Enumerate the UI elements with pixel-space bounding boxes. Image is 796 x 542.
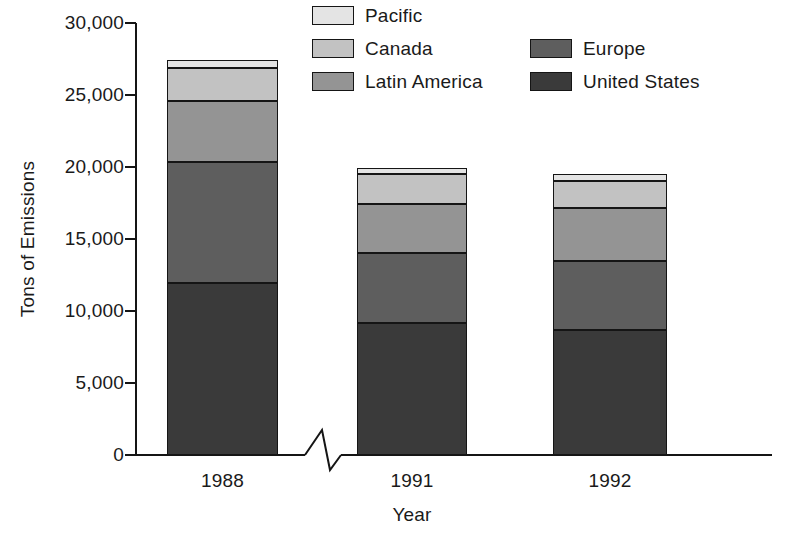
legend-item-pacific: Pacific: [312, 6, 422, 25]
bar-segment-pacific: [553, 174, 667, 180]
bar-segment-canada: [357, 174, 467, 204]
bar-segment-united-states: [167, 283, 278, 455]
legend-label: United States: [583, 72, 700, 91]
bar-segment-europe: [167, 162, 278, 283]
bar-segment-europe: [553, 261, 667, 330]
x-axis-tick-label-1991: 1991: [337, 470, 487, 492]
legend-label: Canada: [365, 39, 433, 58]
x-axis-tick-label-1988: 1988: [148, 470, 298, 492]
bar-segment-united-states: [357, 323, 467, 455]
bar-segment-latin-america: [553, 208, 667, 261]
bar-segment-pacific: [167, 60, 278, 69]
emissions-stacked-bar-chart: Tons of Emissions 30,00025,00020,00015,0…: [0, 0, 796, 542]
bar-segment-united-states: [553, 330, 667, 455]
legend-swatch-icon: [530, 39, 572, 58]
legend-swatch-icon: [312, 6, 354, 25]
bar-segment-canada: [167, 68, 278, 100]
legend-item-united-states: United States: [530, 72, 700, 91]
x-axis-tick-label-1992: 1992: [535, 470, 685, 492]
bar-1988: [167, 0, 278, 542]
legend-swatch-icon: [312, 72, 354, 91]
bar-segment-pacific: [357, 168, 467, 174]
legend-label: Latin America: [365, 72, 483, 91]
bar-segment-canada: [553, 181, 667, 208]
chart-legend: PacificCanadaLatin AmericaEuropeUnited S…: [312, 6, 772, 106]
bar-segment-latin-america: [357, 204, 467, 254]
x-axis-title: Year: [337, 504, 487, 526]
legend-item-latin-america: Latin America: [312, 72, 483, 91]
legend-label: Pacific: [365, 6, 422, 25]
legend-item-europe: Europe: [530, 39, 645, 58]
legend-item-canada: Canada: [312, 39, 433, 58]
legend-swatch-icon: [530, 72, 572, 91]
legend-label: Europe: [583, 39, 645, 58]
bar-segment-europe: [357, 253, 467, 323]
legend-swatch-icon: [312, 39, 354, 58]
bar-segment-latin-america: [167, 101, 278, 162]
